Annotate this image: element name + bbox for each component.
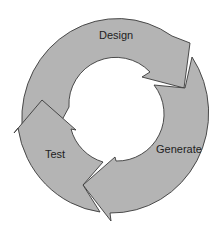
step-label-design: Design [99, 29, 133, 41]
generate-arrow [83, 57, 209, 221]
step-label-generate: Generate [156, 143, 202, 155]
step-label-test: Test [45, 148, 65, 160]
cycle-diagram: Design Generate Test [0, 0, 219, 231]
